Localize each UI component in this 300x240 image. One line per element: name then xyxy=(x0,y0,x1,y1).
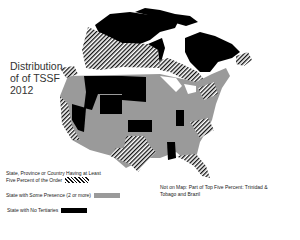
kansas-black xyxy=(128,120,152,132)
indiana-black xyxy=(176,110,184,126)
map-title: Distribution of of TSSF 2012 xyxy=(10,60,63,96)
florida-hatched xyxy=(176,154,210,178)
united-states xyxy=(60,66,230,178)
black-swatch-icon xyxy=(61,208,87,213)
title-line-1: Distribution xyxy=(10,60,63,72)
note-line-1: Not on Map: Part of Top Five Percent: Tr… xyxy=(160,184,267,191)
legend-black-label: State with No Tertiaries xyxy=(7,207,58,213)
legend-gray-label: State with Some Presence (2 or more) xyxy=(6,192,91,198)
legend-item-gray: State with Some Presence (2 or more) xyxy=(6,192,120,199)
hatched-swatch-icon xyxy=(65,177,89,183)
note-line-2: Tobago and Brazil xyxy=(160,191,267,198)
legend-hatched-label-2: Five Percent of the Order xyxy=(6,177,62,183)
region-quebec-labrador xyxy=(185,32,240,72)
wyoming-black xyxy=(100,95,122,114)
title-line-3: 2012 xyxy=(10,84,63,96)
region-maritimes-hatched xyxy=(236,52,252,66)
title-line-2: of of TSSF xyxy=(10,72,63,84)
gray-swatch-icon xyxy=(94,193,120,198)
legend-item-hatched: State, Province or Country Having at Lea… xyxy=(6,170,101,183)
legend-item-black: State with No Tertiaries xyxy=(7,207,87,214)
mississippi-black xyxy=(167,142,176,160)
dakotas-black xyxy=(122,76,146,102)
not-on-map-note: Not on Map: Part of Top Five Percent: Tr… xyxy=(160,184,267,197)
